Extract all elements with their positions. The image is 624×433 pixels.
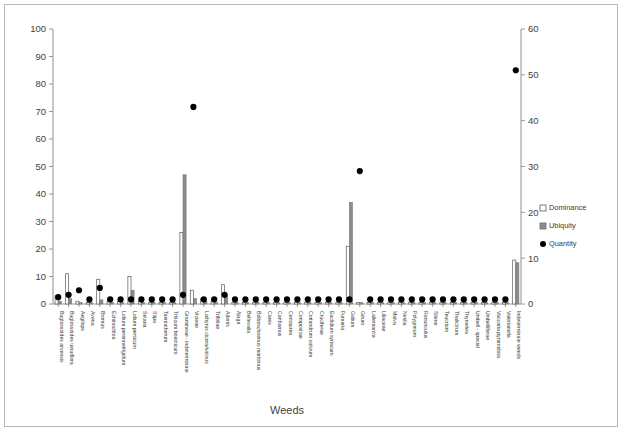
bar-dominance [419,303,422,304]
y-tick-label-left: 10 [35,271,46,282]
bar-ubiquity [245,303,248,304]
svg-text:Avena: Avena [90,311,96,326]
bar-ubiquity [183,175,186,304]
y-tick-label-left: 70 [35,106,46,117]
point-quantity [159,296,165,302]
bar-dominance [388,303,391,304]
bar-dominance [513,260,516,304]
x-category-label: Aegilops [80,311,86,331]
legend-swatch-quantity [540,241,546,247]
bar-ubiquity [329,303,332,304]
x-category-label: Thymelea [464,311,470,334]
svg-text:Lolium persicum: Lolium persicum [132,311,138,349]
bar-ubiquity [287,303,290,304]
bar-ubiquity [173,303,176,304]
bar-ubiquity [308,303,311,304]
bar-dominance [492,303,495,304]
x-category-label: Valerianella [506,311,512,338]
bar-dominance [409,303,412,304]
svg-text:Ranunculus: Ranunculus [423,311,429,339]
point-quantity [222,292,228,298]
bar-dominance [263,303,266,304]
svg-text:Trifoliae: Trifoliae [215,311,221,329]
svg-text:Ajuga: Ajuga [236,311,242,324]
bar-ubiquity [422,303,425,304]
x-category-label: Buglossoides arvensis [59,311,65,363]
svg-text:Bellevalia: Bellevalia [246,311,252,333]
point-quantity [274,296,280,302]
svg-text:Umbell - special: Umbell - special [475,311,481,348]
x-category-label: Gramineae - indeterminate [184,311,190,373]
x-category-label: Triticum boeoticum [173,311,179,355]
bar-ubiquity [100,300,103,304]
point-quantity [138,296,144,302]
bar-dominance [357,303,360,304]
x-category-label: Neslia [402,311,408,326]
y-tick-label-right: 60 [528,23,539,34]
svg-text:Carex: Carex [267,311,273,325]
bar-dominance [305,303,308,304]
svg-text:Buglossoides arvensis: Buglossoides arvensis [59,311,65,363]
svg-text:Euclidium syriacum: Euclidium syriacum [329,311,335,356]
x-category-label: Compositae [298,311,304,339]
svg-text:Aegilops: Aegilops [80,311,86,331]
point-quantity [471,296,477,302]
svg-text:Polygonum: Polygonum [412,311,418,337]
point-quantity [180,292,186,298]
bar-ubiquity [69,299,72,305]
svg-text:Buglossoides tenuiflora: Buglossoides tenuiflora [69,311,75,365]
bar-ubiquity [433,303,436,304]
y-tick-label-left: 60 [35,133,46,144]
svg-text:Fumaria: Fumaria [340,311,346,330]
bar-ubiquity [485,303,488,304]
bar-ubiquity [58,301,61,304]
svg-text:Echinochloa: Echinochloa [111,311,117,339]
bar-ubiquity [370,303,373,304]
svg-text:Bolboschoenus maritimus: Bolboschoenus maritimus [256,311,262,371]
bar-ubiquity [391,303,394,304]
bar-ubiquity [401,303,404,304]
svg-text:Teucrium: Teucrium [444,311,450,332]
x-category-label: Echinochloa [111,311,117,339]
bar-dominance [284,303,287,304]
svg-text:Cruciferae: Cruciferae [319,311,325,335]
point-quantity [430,296,436,302]
x-axis-title: Weeds [270,404,305,416]
x-category-label: Stipa [152,311,158,323]
x-category-label: Lolium persicum [132,311,138,349]
bar-dominance [471,303,474,304]
bar-ubiquity [89,303,92,304]
svg-text:Triticum boeoticum: Triticum boeoticum [173,311,179,355]
svg-text:Stipa: Stipa [152,311,158,323]
bar-ubiquity [79,303,82,304]
svg-text:Lallemantia: Lallemantia [371,311,377,338]
legend-label: Dominance [549,203,586,212]
legend-label: Ubiquity [549,221,576,230]
point-quantity [378,296,384,302]
point-quantity [170,296,176,302]
point-quantity [305,296,311,302]
bar-dominance [86,303,89,304]
y-tick-label-right: 20 [528,207,539,218]
point-quantity [149,296,155,302]
bar-ubiquity [121,303,124,304]
x-category-label: Setaria [142,311,148,328]
x-category-label: Trifoliae [215,311,221,329]
bar-dominance [429,303,432,304]
svg-text:Setaria: Setaria [142,311,148,328]
bar-ubiquity [349,202,352,304]
point-quantity [388,296,394,302]
svg-text:Geum: Geum [360,311,366,325]
svg-text:Gramineae - indeterminate: Gramineae - indeterminate [184,311,190,373]
weeds-chart-svg: 01020304050607080901000102030405060Buglo… [5,5,619,428]
point-quantity [482,296,488,302]
svg-text:Vaccaria pyramidata: Vaccaria pyramidata [496,311,502,358]
point-quantity [346,296,352,302]
point-quantity [97,285,103,291]
bar-ubiquity [318,303,321,304]
point-quantity [128,296,134,302]
x-category-label: Bromus [100,311,106,329]
bar-dominance [367,303,370,304]
y-tick-label-left: 100 [30,23,46,34]
point-quantity [242,296,248,302]
